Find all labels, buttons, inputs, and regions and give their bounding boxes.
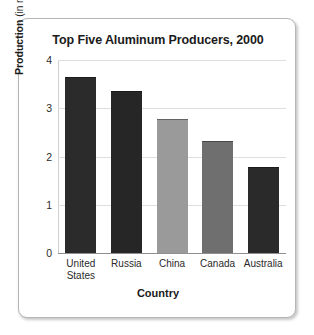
y-tick-label: 4 — [46, 54, 52, 66]
bar-china[interactable] — [157, 119, 188, 253]
bar-united-states[interactable] — [65, 77, 96, 253]
plot-area: 01234 UnitedStatesRussiaChinaCanadaAustr… — [58, 60, 286, 253]
bar-australia[interactable] — [248, 167, 279, 253]
x-category-label-line: States — [67, 270, 95, 281]
chart-title: Top Five Aluminum Producers, 2000 — [19, 33, 297, 47]
y-tick-label: 2 — [46, 151, 52, 163]
x-category-label-line: China — [159, 258, 185, 269]
bars-layer — [58, 60, 286, 253]
y-tick-label: 3 — [46, 102, 52, 114]
x-category-label: Australia — [236, 258, 290, 270]
bar-canada[interactable] — [202, 141, 233, 253]
bar-fill — [111, 91, 142, 253]
x-category-label-line: Canada — [200, 258, 235, 269]
chart-figure-frame: Top Five Aluminum Producers, 2000 Produc… — [18, 18, 296, 318]
bar-fill — [157, 119, 188, 253]
gridline-0 — [58, 253, 286, 254]
y-axis-title: Production (in million metric tons) — [13, 0, 25, 75]
y-tick-label: 0 — [46, 247, 52, 259]
bar-russia[interactable] — [111, 91, 142, 253]
bar-fill — [248, 167, 279, 253]
y-tick-label: 1 — [46, 199, 52, 211]
y-axis-title-units: (in million metric tons) — [14, 0, 25, 20]
x-axis-title: Country — [19, 287, 297, 299]
bar-fill — [65, 77, 96, 253]
y-axis-title-bold: Production — [13, 20, 25, 75]
x-category-label-line: Australia — [244, 258, 283, 269]
x-category-label-line: Russia — [111, 258, 142, 269]
x-category-label-line: United — [66, 258, 95, 269]
bar-fill — [202, 141, 233, 253]
